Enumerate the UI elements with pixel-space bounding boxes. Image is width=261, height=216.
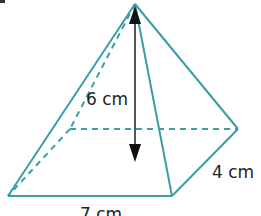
edge-apex-frontright — [135, 4, 172, 196]
pyramid-diagram: 6 cm 4 cm 7 cm — [0, 0, 261, 216]
hidden-edge-apex-backleft — [70, 4, 135, 129]
hidden-edge-base-left — [8, 129, 70, 196]
corner-mark — [0, 0, 5, 3]
height-label: 6 cm — [86, 89, 128, 109]
width-label: 7 cm — [80, 204, 122, 216]
edge-apex-backright — [135, 4, 238, 129]
depth-label: 4 cm — [212, 162, 254, 182]
